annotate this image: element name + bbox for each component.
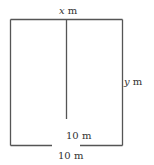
divider-gap-label: 10 m xyxy=(66,130,92,141)
top-label: x m xyxy=(59,5,78,16)
right-label: y m xyxy=(123,76,143,87)
enclosure-diagram: x m y m 10 m 10 m xyxy=(0,0,154,165)
bottom-gap-label: 10 m xyxy=(58,150,84,161)
